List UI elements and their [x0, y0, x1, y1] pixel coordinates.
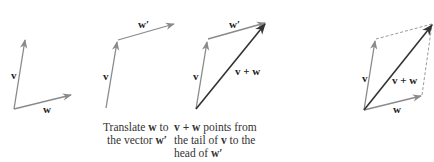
caption-line: the vector w′	[103, 134, 168, 147]
caption-line: Translate w to	[103, 121, 168, 134]
caption-line: the tail of v to the	[174, 134, 257, 147]
label-sum: v + w	[392, 75, 417, 86]
label-w-prime: w′	[229, 19, 240, 30]
label-v: v	[193, 71, 199, 82]
vector-sum	[364, 25, 432, 110]
panel-2	[106, 24, 174, 108]
label-w-prime: w′	[138, 19, 149, 30]
caption-sum: v + w points from the tail of v to the h…	[174, 121, 257, 160]
label-v: v	[362, 73, 368, 84]
label-sum: v + w	[235, 66, 260, 77]
panel-1	[14, 40, 71, 109]
label-v: v	[11, 70, 17, 81]
panel-4	[364, 24, 432, 110]
caption-line: v + w points from	[174, 121, 257, 134]
label-v: v	[103, 71, 109, 82]
caption-line: head of w′	[174, 147, 257, 160]
label-w: w	[393, 104, 401, 115]
caption-translate: Translate w to the vector w′	[103, 121, 168, 147]
label-w: w	[43, 104, 51, 115]
